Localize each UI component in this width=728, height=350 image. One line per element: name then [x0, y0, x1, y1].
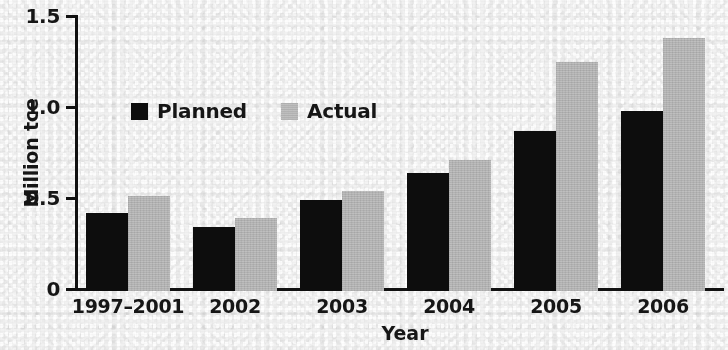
bar-actual-5 — [663, 38, 705, 291]
bar-actual-1 — [235, 218, 277, 291]
gray-square-icon — [281, 103, 298, 120]
bar-chart: 1.5 1.0 0.5 0 Million tce Year 1997–2001… — [0, 0, 728, 350]
legend-label-planned: Planned — [157, 99, 247, 123]
y-tick-mark-1 — [66, 197, 76, 200]
chart-legend: Planned Actual — [131, 99, 377, 123]
plot-area: 1.5 1.0 0.5 0 Million tce Year 1997–2001… — [0, 0, 728, 350]
bar-planned-3 — [407, 173, 449, 291]
x-axis-title: Year — [0, 322, 728, 344]
bar-planned-4 — [514, 131, 556, 291]
y-tick-mark-0 — [66, 288, 76, 291]
legend-entry-planned: Planned — [131, 99, 247, 123]
y-axis-title: Million tce — [20, 78, 42, 228]
bar-actual-2 — [342, 191, 384, 291]
bar-planned-2 — [300, 200, 342, 291]
black-square-icon — [131, 103, 148, 120]
y-axis-line — [75, 15, 78, 291]
bar-planned-5 — [621, 111, 663, 291]
bar-planned-0 — [86, 213, 128, 291]
legend-label-actual: Actual — [307, 99, 377, 123]
x-tick-label-5: 2006 — [583, 295, 728, 317]
bar-actual-4 — [556, 62, 598, 291]
bar-actual-3 — [449, 160, 491, 291]
y-tick-mark-3 — [66, 15, 76, 18]
legend-entry-actual: Actual — [281, 99, 377, 123]
bar-planned-1 — [193, 227, 235, 291]
bar-actual-0 — [128, 196, 170, 291]
y-tick-label-3: 1.5 — [0, 4, 60, 28]
y-tick-mark-2 — [66, 106, 76, 109]
